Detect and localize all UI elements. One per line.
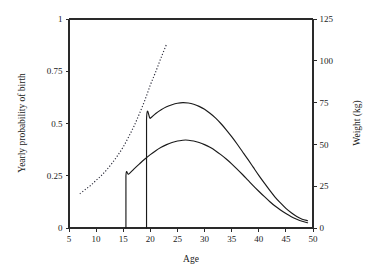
series-birth-probability-upper	[147, 103, 308, 228]
y-tick-label-left: 0.25	[47, 171, 63, 181]
x-tick-label: 20	[146, 234, 156, 244]
x-axis-title: Age	[183, 254, 199, 264]
x-tick-label: 50	[309, 234, 319, 244]
x-tick-label: 40	[254, 234, 264, 244]
y-tick-label-right: 25	[320, 181, 330, 191]
x-tick-label: 25	[173, 234, 183, 244]
y-tick-label-left: 0	[58, 223, 63, 233]
x-tick-label: 30	[200, 234, 210, 244]
x-tick-label: 45	[281, 234, 291, 244]
y-tick-label-left: 0.5	[51, 119, 63, 129]
y-tick-label-right: 125	[320, 14, 334, 24]
x-tick-label: 15	[119, 234, 129, 244]
x-tick-label: 10	[92, 234, 102, 244]
y-axis-title-left: Yearly probability of birth	[17, 73, 27, 173]
plot-frame	[69, 19, 313, 228]
y-tick-label-right: 0	[320, 223, 325, 233]
y-tick-label-left: 1	[58, 14, 63, 24]
x-tick-label: 5	[67, 234, 72, 244]
y-tick-label-left: 0.75	[47, 66, 63, 76]
x-tick-label: 35	[227, 234, 237, 244]
y-axis-right: 0255075100125	[313, 14, 334, 233]
chart-figure: 5101520253035404550 00.250.50.751 025507…	[0, 0, 378, 277]
chart-canvas: 5101520253035404550 00.250.50.751 025507…	[0, 0, 378, 277]
y-tick-label-right: 100	[320, 56, 334, 66]
y-axis-title-right: Weight (kg)	[352, 100, 363, 145]
series-weight-curve	[80, 44, 167, 194]
y-axis-left: 00.250.50.751	[47, 14, 69, 233]
y-tick-label-right: 50	[320, 140, 330, 150]
x-axis: 5101520253035404550	[67, 228, 318, 244]
series-layer	[80, 44, 308, 228]
series-birth-probability-lower	[126, 140, 308, 228]
y-tick-label-right: 75	[320, 98, 330, 108]
